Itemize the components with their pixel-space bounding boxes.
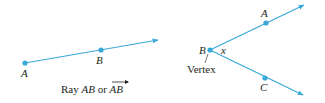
vertex-caption: Vertex (187, 63, 216, 75)
angle-point-c (262, 75, 267, 80)
vector-arrow-head (125, 80, 129, 84)
angle-point-a-label: A (260, 7, 268, 19)
point-b (98, 47, 103, 52)
angle-label: x (220, 44, 226, 56)
ray-figure: A B Ray AB or AB (20, 40, 158, 95)
caption-prefix: Ray (61, 83, 81, 95)
point-b-label: B (96, 54, 103, 66)
angle-point-c-label: C (260, 81, 268, 93)
ray-bc-line (210, 50, 303, 95)
caption-vector: AB (109, 83, 124, 95)
ray-caption: Ray AB or AB (61, 83, 123, 95)
point-a (22, 60, 27, 65)
caption-ab: AB (80, 83, 95, 95)
caption-or: or (95, 83, 110, 95)
ray-ab-line (25, 40, 158, 63)
point-a-label: A (20, 67, 28, 79)
angle-figure: B x A C Vertex (187, 5, 304, 95)
vertex-point (207, 47, 212, 52)
vertex-label: B (199, 44, 206, 56)
angle-point-a (263, 20, 268, 25)
geometry-diagram: A B Ray AB or AB B x A C Vertex (0, 0, 325, 103)
